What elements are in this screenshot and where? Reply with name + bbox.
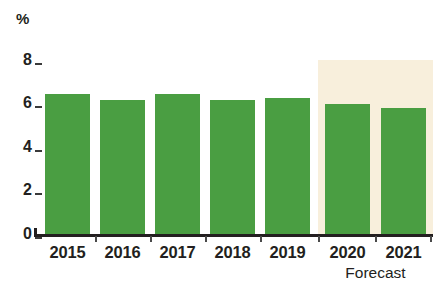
x-axis-tick-5	[318, 236, 320, 242]
bar-2019	[265, 98, 310, 234]
x-axis-tick-2	[150, 236, 152, 242]
y-axis-tick-dash-4	[35, 150, 42, 152]
y-axis-tick-label-2: 2	[23, 182, 32, 198]
y-axis-tick-dash-6	[35, 106, 42, 108]
y-axis-tick-4: 4	[0, 139, 42, 155]
y-axis-tick-dash-0	[35, 237, 42, 239]
x-axis-label-2020: 2020	[320, 243, 375, 261]
y-axis-unit-label: %	[16, 11, 29, 26]
x-axis-label-2015: 2015	[40, 243, 95, 261]
x-axis-tick-7	[430, 236, 432, 242]
y-axis-tick-2: 2	[0, 182, 42, 198]
x-axis-label-2021: 2021	[376, 243, 431, 261]
bar-chart: % 8 6 4 2 0	[0, 0, 433, 288]
x-axis-tick-1	[95, 236, 97, 242]
y-axis-tick-6: 6	[0, 95, 42, 111]
x-axis-label-2016: 2016	[95, 243, 150, 261]
y-axis-tick-dash-2	[35, 193, 42, 195]
bar-2017	[155, 94, 200, 234]
y-axis-tick-label-0: 0	[23, 226, 32, 242]
x-axis-label-2017: 2017	[150, 243, 205, 261]
x-axis-label-2019: 2019	[260, 243, 315, 261]
y-axis-tick-label-6: 6	[23, 95, 32, 111]
bar-2021	[381, 108, 426, 234]
x-axis-tick-4	[260, 236, 262, 242]
x-axis-tick-3	[205, 236, 207, 242]
bar-2015	[45, 94, 90, 234]
y-axis-tick-8: 8	[0, 52, 42, 68]
plot-area: % 8 6 4 2 0	[0, 0, 433, 288]
y-axis-tick-label-8: 8	[23, 52, 32, 68]
x-axis-tick-6	[375, 236, 377, 242]
x-axis-line	[34, 234, 433, 237]
forecast-caption: Forecast	[318, 264, 433, 281]
x-axis-label-2018: 2018	[205, 243, 260, 261]
y-axis-tick-label-4: 4	[23, 139, 32, 155]
bar-2020	[325, 104, 370, 235]
bar-2018	[210, 100, 255, 234]
y-axis-tick-dash-8	[35, 63, 42, 65]
bar-2016	[100, 100, 145, 234]
